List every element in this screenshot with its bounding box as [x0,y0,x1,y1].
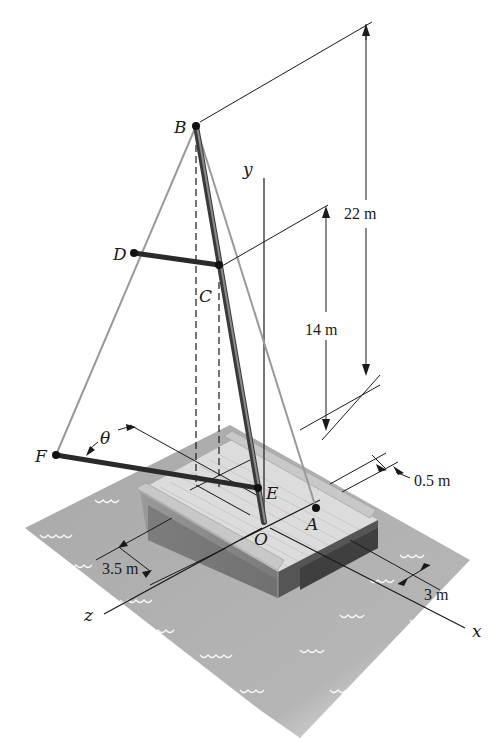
label-z-axis: z [83,605,94,625]
label-y-axis: y [242,159,253,179]
point-F [52,451,60,459]
label-F: F [34,446,48,466]
dim-3-5m: 3.5 m [102,560,139,577]
dim-22m: 22 m [344,205,377,222]
label-C: C [199,286,212,306]
point-C [215,261,223,269]
theta-arrowheads [86,424,136,456]
label-O: O [254,529,268,549]
sailboat-mast-diagram: B D C F E A O y x z θ 22 m 14 m 0.5 m 3 … [0,0,502,738]
point-D [130,249,138,257]
spreader-CD [134,253,219,265]
dim-0-5m: 0.5 m [414,472,451,489]
label-theta: θ [100,428,110,448]
label-x-axis: x [472,621,482,641]
point-A [312,504,320,512]
dim-3m: 3 m [424,586,449,603]
label-A: A [304,514,318,534]
dim-14m: 14 m [305,321,338,338]
label-E: E [265,483,279,503]
cable-BF [56,126,196,455]
label-B: B [173,117,187,137]
label-D: D [112,244,127,264]
point-B [192,122,200,130]
point-E [254,484,262,492]
